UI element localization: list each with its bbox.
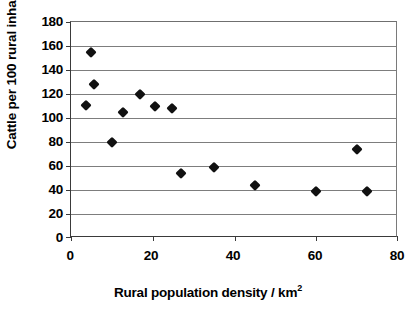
- x-tick-label-20: 20: [131, 249, 171, 263]
- gridline-20: [71, 214, 396, 215]
- y-tick-label-20: 20: [23, 207, 63, 221]
- y-tick-label-40: 40: [23, 183, 63, 197]
- data-point: [362, 186, 373, 197]
- y-tick-label-160: 160: [23, 39, 63, 53]
- data-point: [86, 47, 97, 58]
- y-tick-160: [66, 46, 71, 47]
- gridline-40: [71, 190, 396, 191]
- y-tick-180: [66, 22, 71, 23]
- gridline-140: [71, 70, 396, 71]
- y-tick-20: [66, 214, 71, 215]
- y-tick-40: [66, 190, 71, 191]
- x-tick-label-60: 60: [295, 249, 335, 263]
- x-tick-80: [397, 236, 398, 241]
- x-axis-title: Rural population density / km2: [0, 283, 416, 300]
- data-point: [118, 107, 129, 118]
- y-tick-label-60: 60: [23, 159, 63, 173]
- data-point: [209, 162, 220, 173]
- x-tick-label-40: 40: [213, 249, 253, 263]
- y-tick-label-100: 100: [23, 111, 63, 125]
- y-tick-label-180: 180: [23, 15, 63, 29]
- gridline-120: [71, 94, 396, 95]
- y-tick-label-80: 80: [23, 135, 63, 149]
- y-tick-100: [66, 118, 71, 119]
- scatter-chart: 180 160 140 120 100 80 60 40 20 0 0 20 4…: [0, 0, 416, 310]
- y-axis-title: Cattle per 100 rural inhabitants: [4, 0, 19, 169]
- x-axis-title-superscript: 2: [297, 283, 302, 293]
- gridline-160: [71, 46, 396, 47]
- y-tick-140: [66, 70, 71, 71]
- data-point: [176, 168, 187, 179]
- y-tick-120: [66, 94, 71, 95]
- data-point: [250, 180, 261, 191]
- gridline-100: [71, 118, 396, 119]
- data-point: [107, 137, 118, 148]
- data-point: [352, 144, 363, 155]
- data-point: [89, 79, 100, 90]
- x-tick-label-80: 80: [377, 249, 416, 263]
- y-tick-80: [66, 142, 71, 143]
- data-point: [149, 101, 160, 112]
- data-point: [135, 89, 146, 100]
- x-tick-60: [316, 236, 317, 241]
- plot-area: [70, 21, 397, 237]
- gridline-60: [71, 166, 396, 167]
- data-point: [167, 103, 178, 114]
- x-tick-label-0: 0: [50, 249, 90, 263]
- y-tick-label-0: 0: [23, 231, 63, 245]
- data-point: [81, 99, 92, 110]
- x-axis-title-text: Rural population density / km: [114, 285, 297, 300]
- x-tick-20: [153, 236, 154, 241]
- y-tick-label-120: 120: [23, 87, 63, 101]
- gridline-80: [71, 142, 396, 143]
- y-tick-60: [66, 166, 71, 167]
- x-tick-40: [235, 236, 236, 241]
- y-tick-label-140: 140: [23, 63, 63, 77]
- x-tick-0: [71, 236, 72, 241]
- data-point: [311, 186, 322, 197]
